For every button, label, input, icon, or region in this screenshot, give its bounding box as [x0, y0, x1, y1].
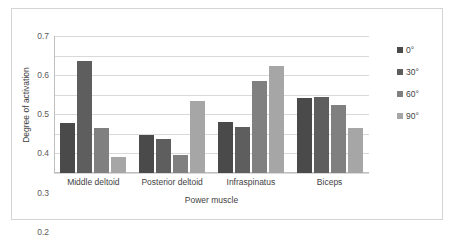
legend-swatch-icon	[397, 69, 403, 75]
bar-groups: Middle deltoidPosterior deltoidInfraspin…	[54, 36, 369, 173]
legend-item[interactable]: 90°	[397, 105, 445, 127]
y-axis-tick-label: 0.6	[37, 70, 49, 80]
legend-label: 30°	[406, 67, 419, 77]
bar	[139, 135, 154, 173]
y-axis-tick-label: 0.2	[37, 227, 49, 235]
bar	[331, 105, 346, 173]
x-axis-title: Power muscle	[54, 195, 369, 205]
legend: 0°30°60°90°	[397, 39, 445, 127]
bar-group: Posterior deltoid	[133, 36, 212, 173]
bar-group: Middle deltoid	[54, 36, 133, 173]
legend-label: 0°	[406, 45, 414, 55]
x-axis-category-label: Infraspinatus	[212, 177, 291, 187]
legend-swatch-icon	[397, 113, 403, 119]
bar	[190, 101, 205, 173]
x-axis-category-label: Posterior deltoid	[133, 177, 212, 187]
y-axis-title-text: Degree of activation	[21, 67, 31, 143]
bar	[156, 139, 171, 173]
bar	[252, 81, 267, 173]
bar	[235, 127, 250, 173]
y-axis-tick-label: 0.4	[37, 148, 49, 158]
bar-group: Biceps	[290, 36, 369, 173]
plot-area: 0.70.60.50.40.30.20.10 Middle deltoidPos…	[54, 36, 369, 173]
legend-swatch-icon	[397, 91, 403, 97]
y-axis-tick-label: 0.5	[37, 109, 49, 119]
legend-label: 90°	[406, 111, 419, 121]
bar-group: Infraspinatus	[212, 36, 291, 173]
y-axis-title: Degree of activation	[19, 36, 32, 173]
gridline: 0	[54, 173, 369, 174]
legend-swatch-icon	[397, 47, 403, 53]
bar	[60, 123, 75, 173]
bar	[94, 128, 109, 173]
y-axis-tick-label: 0.3	[37, 188, 49, 198]
legend-item[interactable]: 30°	[397, 61, 445, 83]
x-axis-category-label: Middle deltoid	[54, 177, 133, 187]
bar	[77, 61, 92, 173]
chart-frame: Degree of activation 0.70.60.50.40.30.20…	[11, 8, 443, 220]
bar	[218, 122, 233, 173]
bar	[348, 128, 363, 173]
bar	[297, 98, 312, 173]
bar	[269, 66, 284, 173]
legend-label: 60°	[406, 89, 419, 99]
bar	[173, 155, 188, 173]
legend-item[interactable]: 60°	[397, 83, 445, 105]
y-axis-tick-label: 0.7	[37, 31, 49, 41]
bar	[314, 97, 329, 173]
x-axis-category-label: Biceps	[290, 177, 369, 187]
bar	[111, 157, 126, 173]
legend-item[interactable]: 0°	[397, 39, 445, 61]
